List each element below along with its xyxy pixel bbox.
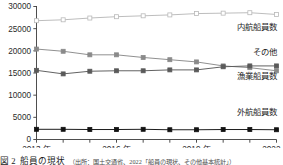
x-tick-label: 2013 年 xyxy=(22,144,51,149)
caption-figure-number: 図 2 xyxy=(0,156,15,165)
series-marker xyxy=(275,12,279,16)
y-tick-label: 10000 xyxy=(8,91,31,100)
series-marker xyxy=(275,64,279,68)
series-inline-label: その他 xyxy=(253,47,278,57)
series-inline-label: 漁業船員数 xyxy=(237,71,278,81)
caption-title: 船員の現状 xyxy=(20,156,65,165)
series-marker xyxy=(141,127,145,131)
x-axis-tick-marks xyxy=(37,140,277,143)
series-inline-labels: 内航船員数その他漁業船員数外航船員数 xyxy=(237,22,278,116)
series-marker xyxy=(141,69,145,73)
x-axis-tick-labels: 2013 年2016 年2019 年2022 年 xyxy=(22,144,283,149)
y-tick-label: 25000 xyxy=(8,25,31,34)
y-tick-label: 20000 xyxy=(8,47,31,56)
series-marker xyxy=(88,16,92,20)
series-marker xyxy=(248,128,252,132)
y-tick-label: 0 xyxy=(26,135,31,144)
series-marker xyxy=(115,128,119,132)
line-chart-svg: 050001000015000200002500030000 2013 年201… xyxy=(0,0,283,148)
series-marker xyxy=(88,53,92,57)
series-marker xyxy=(141,55,145,59)
series-marker xyxy=(35,47,39,51)
x-tick-label: 2016 年 xyxy=(102,144,131,149)
series-marker xyxy=(61,127,65,131)
series-inline-label: 内航船員数 xyxy=(237,22,278,32)
series-line xyxy=(37,49,277,71)
series-marker xyxy=(61,72,65,76)
series-marker xyxy=(195,128,199,132)
series-marker xyxy=(115,53,119,57)
series-marker xyxy=(168,13,172,17)
series-marker xyxy=(141,14,145,18)
y-tick-label: 5000 xyxy=(13,113,32,122)
chart-series xyxy=(35,127,279,131)
series-marker xyxy=(195,68,199,72)
x-tick-label: 2019 年 xyxy=(182,144,211,149)
series-marker xyxy=(61,18,65,22)
figure-container: 050001000015000200002500030000 2013 年201… xyxy=(0,0,283,165)
caption-source: （出所：国土交通省、2022「船員の現状、その他基本統計」） xyxy=(69,158,234,165)
x-tick-label: 2022 年 xyxy=(262,144,283,149)
y-tick-label: 30000 xyxy=(8,2,31,11)
series-line xyxy=(37,13,277,21)
chart-plot-area: 050001000015000200002500030000 2013 年201… xyxy=(0,0,283,148)
y-tick-label: 15000 xyxy=(8,69,31,78)
series-marker xyxy=(248,64,252,68)
series-marker xyxy=(35,68,39,72)
series-marker xyxy=(221,128,225,132)
series-marker xyxy=(88,128,92,132)
series-marker xyxy=(35,127,39,131)
y-axis-tick-marks xyxy=(33,7,36,140)
series-marker xyxy=(195,60,199,64)
series-marker xyxy=(168,58,172,62)
series-marker xyxy=(221,65,225,69)
y-axis-tick-labels: 050001000015000200002500030000 xyxy=(8,2,31,144)
figure-caption: 図 2 船員の現状 （出所：国土交通省、2022「船員の現状、その他基本統計」） xyxy=(0,150,283,165)
series-marker xyxy=(248,11,252,15)
series-marker xyxy=(61,49,65,53)
series-marker xyxy=(195,12,199,16)
series-marker xyxy=(168,68,172,72)
series-inline-label: 外航船員数 xyxy=(237,107,278,117)
series-marker xyxy=(221,11,225,15)
series-marker xyxy=(88,69,92,73)
chart-series xyxy=(35,47,279,73)
series-marker xyxy=(115,69,119,73)
series-marker xyxy=(168,128,172,132)
series-marker xyxy=(115,15,119,19)
series-marker xyxy=(275,128,279,132)
series-marker xyxy=(35,19,39,23)
chart-series xyxy=(35,11,279,23)
